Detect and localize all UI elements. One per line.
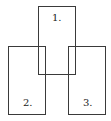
rectangle-3-label: 3. — [83, 98, 93, 108]
rectangle-1-label: 1. — [52, 13, 62, 23]
rectangle-2-label: 2. — [23, 98, 33, 108]
